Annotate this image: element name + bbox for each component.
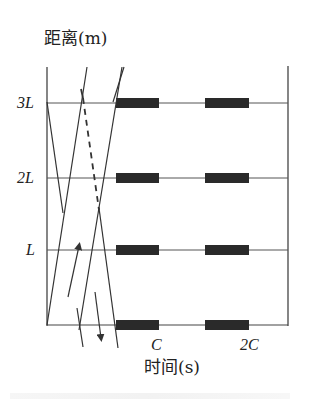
bar: [205, 320, 249, 330]
y-tick-2L: 2L: [17, 170, 34, 186]
arrow-tick-icon: [81, 89, 83, 98]
x-tick-C: C: [151, 337, 162, 353]
y-axis-label: 距离(m): [44, 30, 107, 47]
arrow-down-icon: [95, 292, 101, 338]
x-axis-label: 时间(s): [144, 359, 200, 376]
trajectory-line: [47, 102, 63, 213]
dashed-trajectory: [83, 98, 99, 210]
bar: [205, 173, 249, 183]
bar: [205, 98, 249, 108]
bar: [116, 245, 159, 255]
y-tick-3L: 3L: [17, 95, 34, 111]
trajectory-line: [99, 208, 118, 348]
trajectory-line: [47, 67, 87, 325]
bar: [116, 173, 159, 183]
bar: [205, 245, 249, 255]
x-tick-2C: 2C: [240, 337, 259, 353]
faded-caption: [10, 393, 290, 399]
trajectory-line: [113, 67, 124, 102]
trajectories: [47, 67, 124, 348]
signal-bars: [116, 98, 249, 330]
trajectory-line: [79, 67, 122, 330]
y-tick-L: L: [26, 242, 35, 258]
arrow-up-icon: [68, 246, 79, 297]
bar: [116, 98, 159, 108]
bar: [116, 320, 159, 330]
